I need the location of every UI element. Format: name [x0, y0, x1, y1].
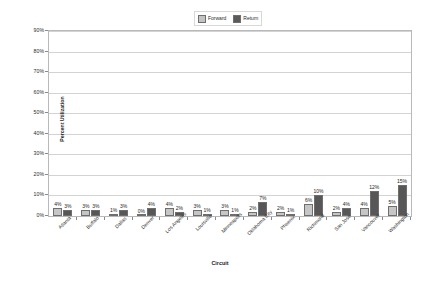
bar-wrapper: 2% — [276, 31, 285, 216]
bar-value-label: 1% — [287, 208, 294, 213]
bar-value-label: 6% — [305, 198, 312, 203]
bar-wrapper: 2% — [248, 31, 257, 216]
bar-wrapper: 3% — [220, 31, 229, 216]
bar-value-label: 4% — [361, 202, 368, 207]
bar-wrapper: 7% — [258, 31, 267, 216]
bar-value-label: 3% — [221, 204, 228, 209]
y-tick-mark — [45, 174, 48, 175]
bar-wrapper: 15% — [398, 31, 407, 216]
bar-value-label: 4% — [343, 202, 350, 207]
bar-forward[interactable] — [53, 208, 62, 216]
y-tick-label: 10% — [4, 191, 44, 197]
bar-value-label: 4% — [166, 202, 173, 207]
bar-wrapper: 2% — [332, 31, 341, 216]
bar-group: 2%1% — [272, 31, 300, 216]
bar-group: 2%7% — [244, 31, 272, 216]
bar-forward[interactable] — [304, 204, 313, 216]
y-tick-label: 90% — [4, 27, 44, 33]
bar-value-label: 3% — [92, 204, 99, 209]
bar-wrapper: 3% — [119, 31, 128, 216]
y-tick-mark — [45, 51, 48, 52]
y-tick-mark — [45, 215, 48, 216]
x-label-cell: Vancouver — [355, 219, 383, 259]
legend-swatch-return-icon — [233, 15, 241, 23]
bar-group: 2%4% — [327, 31, 355, 216]
bar-wrapper: 0% — [137, 31, 146, 216]
bar-forward[interactable] — [360, 208, 369, 216]
bar-wrapper: 4% — [342, 31, 351, 216]
bar-value-label: 7% — [259, 196, 266, 201]
y-tick-label: 70% — [4, 68, 44, 74]
x-tick-label: Dallas — [114, 216, 127, 229]
bar-value-label: 2% — [249, 206, 256, 211]
bar-forward[interactable] — [137, 214, 146, 216]
bar-wrapper: 1% — [286, 31, 295, 216]
bar-value-label: 2% — [333, 206, 340, 211]
bar-wrapper: 3% — [81, 31, 90, 216]
bar-wrapper: 1% — [109, 31, 118, 216]
bar-value-label: 1% — [204, 208, 211, 213]
bar-forward[interactable] — [388, 206, 397, 216]
x-axis-labels: AtlantaBuffaloDallasDenverLos AngelesLou… — [49, 219, 411, 259]
y-tick-label: 80% — [4, 48, 44, 54]
bar-wrapper: 4% — [165, 31, 174, 216]
bar-forward[interactable] — [165, 208, 174, 216]
bar-group: 0%4% — [133, 31, 161, 216]
y-tick-label: 0% — [4, 212, 44, 218]
x-label-cell: Dallas — [105, 219, 133, 259]
bar-group: 6%10% — [300, 31, 328, 216]
y-tick-mark — [45, 194, 48, 195]
bar-wrapper: 4% — [147, 31, 156, 216]
x-label-cell: Atlanta — [49, 219, 77, 259]
x-label-cell: Minneapolis — [216, 219, 244, 259]
bar-group: 4%12% — [355, 31, 383, 216]
bar-value-label: 5% — [388, 200, 395, 205]
bar-value-label: 12% — [369, 185, 379, 190]
legend-label-forward: Forward — [208, 16, 226, 21]
bar-forward[interactable] — [276, 212, 285, 216]
bar-forward[interactable] — [193, 210, 202, 216]
bars-layer: 4%3%3%3%1%3%0%4%4%2%3%1%3%1%2%7%2%1%6%10… — [49, 31, 411, 216]
bar-wrapper: 3% — [63, 31, 72, 216]
bar-chart: Forward Return 0%10%20%30%40%50%60%70%80… — [0, 0, 440, 282]
bar-wrapper: 1% — [230, 31, 239, 216]
legend-label-return: Return — [243, 16, 258, 21]
y-tick-label: 30% — [4, 150, 44, 156]
y-tick-mark — [45, 71, 48, 72]
bar-forward[interactable] — [109, 214, 118, 216]
bar-wrapper: 3% — [193, 31, 202, 216]
y-tick-mark — [45, 112, 48, 113]
x-label-cell: San Jose — [327, 219, 355, 259]
x-label-cell: Washington — [383, 219, 411, 259]
x-label-cell: Oklahoma City — [244, 219, 272, 259]
x-label-cell: Phoenix — [272, 219, 300, 259]
bar-group: 4%3% — [49, 31, 77, 216]
bar-wrapper: 12% — [370, 31, 379, 216]
x-label-cell: Los Angeles — [160, 219, 188, 259]
bar-wrapper: 10% — [314, 31, 323, 216]
bar-value-label: 3% — [120, 204, 127, 209]
bar-forward[interactable] — [81, 210, 90, 216]
bar-forward[interactable] — [220, 210, 229, 216]
bar-wrapper: 3% — [91, 31, 100, 216]
bar-group: 1%3% — [105, 31, 133, 216]
y-tick-mark — [45, 153, 48, 154]
bar-value-label: 4% — [54, 202, 61, 207]
bar-group: 5%15% — [383, 31, 411, 216]
bar-forward[interactable] — [332, 212, 341, 216]
y-tick-label: 60% — [4, 89, 44, 95]
y-tick-label: 40% — [4, 130, 44, 136]
bar-forward[interactable] — [248, 212, 257, 216]
bar-value-label: 3% — [82, 204, 89, 209]
y-tick-mark — [45, 92, 48, 93]
bar-value-label: 3% — [64, 204, 71, 209]
bar-wrapper: 1% — [203, 31, 212, 216]
bar-group: 3%1% — [216, 31, 244, 216]
legend-swatch-forward-icon — [198, 15, 206, 23]
legend-item-forward: Forward — [198, 15, 226, 23]
bar-wrapper: 5% — [388, 31, 397, 216]
bar-value-label: 2% — [277, 206, 284, 211]
y-tick-mark — [45, 133, 48, 134]
x-label-cell: Louisville — [188, 219, 216, 259]
x-label-cell: Buffalo — [77, 219, 105, 259]
